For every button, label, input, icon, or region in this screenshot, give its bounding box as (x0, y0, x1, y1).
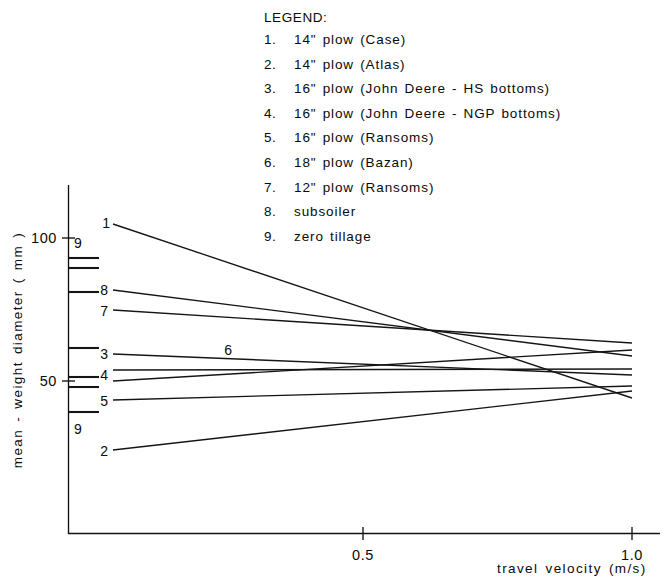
legend-item-6: 6. 18" plow (Bazan) (264, 155, 584, 180)
axis-range-marks-group (69, 258, 99, 412)
series-group (113, 224, 632, 450)
series-label-8: 8 (100, 282, 108, 298)
legend-item-3: 3. 16" plow (John Deere - HS bottoms) (264, 81, 584, 106)
series-line-8 (113, 290, 632, 356)
series-label-6: 6 (224, 342, 232, 358)
legend-item-number: 8. (264, 204, 294, 219)
legend-item-label: 14" plow (Atlas) (294, 57, 405, 72)
legend-item-number: 2. (264, 57, 294, 72)
legend-item-8: 8. subsoiler (264, 204, 584, 229)
legend-item-label: 16" plow (John Deere - NGP bottoms) (294, 106, 561, 121)
series-label-group: 1 2 3 4 5 6 7 8 (100, 215, 232, 459)
legend-item-number: 7. (264, 180, 294, 195)
y-tick-label-100: 100 (31, 230, 57, 246)
axis-annotation-9-lower: 9 (74, 421, 82, 437)
series-line-7 (113, 310, 632, 343)
series-label-1: 1 (102, 215, 110, 231)
legend-item-9: 9. zero tillage (264, 229, 584, 254)
x-tick-label-0-5: 0.5 (352, 547, 374, 563)
legend-item-4: 4. 16" plow (John Deere - NGP bottoms) (264, 106, 584, 131)
legend-item-label: subsoiler (294, 204, 356, 219)
series-line-6 (113, 350, 632, 381)
y-tick-label-50: 50 (40, 373, 57, 389)
series-label-7: 7 (100, 303, 108, 319)
legend-item-5: 5. 16" plow (Ransoms) (264, 130, 584, 155)
legend-item-number: 9. (264, 229, 294, 244)
legend-item-number: 4. (264, 106, 294, 121)
series-label-2: 2 (100, 443, 108, 459)
axis-annotation-9-upper: 9 (74, 235, 82, 251)
legend-item-label: 18" plow (Bazan) (294, 155, 414, 170)
legend-item-number: 5. (264, 130, 294, 145)
legend: LEGEND: 1. 14" plow (Case) 2. 14" plow (… (264, 10, 584, 253)
x-axis-title: travel velocity (m/s) (497, 561, 647, 576)
legend-item-number: 3. (264, 81, 294, 96)
legend-item-label: 12" plow (Ransoms) (294, 180, 434, 195)
legend-item-1: 1. 14" plow (Case) (264, 32, 584, 57)
legend-item-2: 2. 14" plow (Atlas) (264, 57, 584, 82)
y-axis-title: mean - weight diameter ( mm ) (10, 232, 25, 468)
figure-container: 100 50 0.5 1.0 travel velocity (m/s) mea… (0, 0, 669, 581)
legend-item-number: 6. (264, 155, 294, 170)
series-line-2 (113, 391, 632, 450)
series-label-5: 5 (100, 393, 108, 409)
series-line-4 (113, 369, 632, 370)
legend-title: LEGEND: (264, 10, 584, 25)
legend-item-7: 7. 12" plow (Ransoms) (264, 180, 584, 205)
series-line-5 (113, 386, 632, 400)
series-label-4: 4 (100, 367, 108, 383)
legend-item-label: 16" plow (John Deere - HS bottoms) (294, 81, 550, 96)
series-label-3: 3 (100, 346, 108, 362)
series-line-3 (113, 354, 632, 375)
legend-item-label: zero tillage (294, 229, 372, 244)
legend-item-label: 14" plow (Case) (294, 32, 406, 47)
x-tick-group: 0.5 1.0 (352, 527, 643, 563)
legend-item-label: 16" plow (Ransoms) (294, 130, 434, 145)
legend-item-number: 1. (264, 32, 294, 47)
